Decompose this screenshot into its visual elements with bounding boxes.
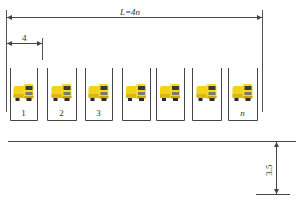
bay-number-label: n: [240, 108, 245, 118]
bay-number-label: 3: [96, 108, 101, 118]
parking-bay: [157, 68, 185, 121]
parking-bay: [193, 68, 222, 121]
parking-bay: n: [229, 68, 258, 121]
bay-width-label: 4: [22, 33, 27, 43]
bay-number-label: 2: [59, 108, 64, 118]
truck-icon: [233, 84, 253, 101]
parking-layout-diagram: L=4n 4 123n 3.5: [0, 0, 304, 202]
parking-bay: [123, 68, 151, 121]
aisle-width-label: 3.5: [264, 164, 274, 176]
parking-bay: 3: [86, 68, 113, 121]
truck-icon: [160, 84, 180, 101]
parking-bay: 1: [11, 68, 38, 121]
parking-bay: 2: [48, 68, 77, 121]
truck-icon: [89, 84, 109, 101]
total-length-label: L=4n: [119, 7, 141, 17]
truck-icon: [197, 84, 217, 101]
truck-icon: [126, 84, 146, 101]
truck-icon: [14, 84, 34, 101]
truck-icon: [52, 84, 72, 101]
bay-number-label: 1: [21, 108, 26, 118]
parking-bays: 123n: [11, 68, 258, 121]
